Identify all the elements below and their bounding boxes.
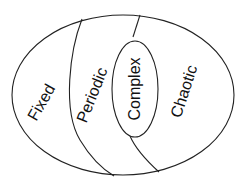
region-label-complex: Complex (126, 57, 143, 120)
region-label-chaotic: Chaotic (167, 63, 200, 120)
periodic-chaotic-boundary-upper (133, 15, 140, 37)
periodic-chaotic-boundary-lower (130, 136, 159, 172)
region-label-fixed: Fixed (24, 81, 58, 123)
dynamics-regions-diagram: Fixed Periodic Complex Chaotic (0, 0, 242, 184)
region-label-periodic: Periodic (73, 65, 110, 125)
